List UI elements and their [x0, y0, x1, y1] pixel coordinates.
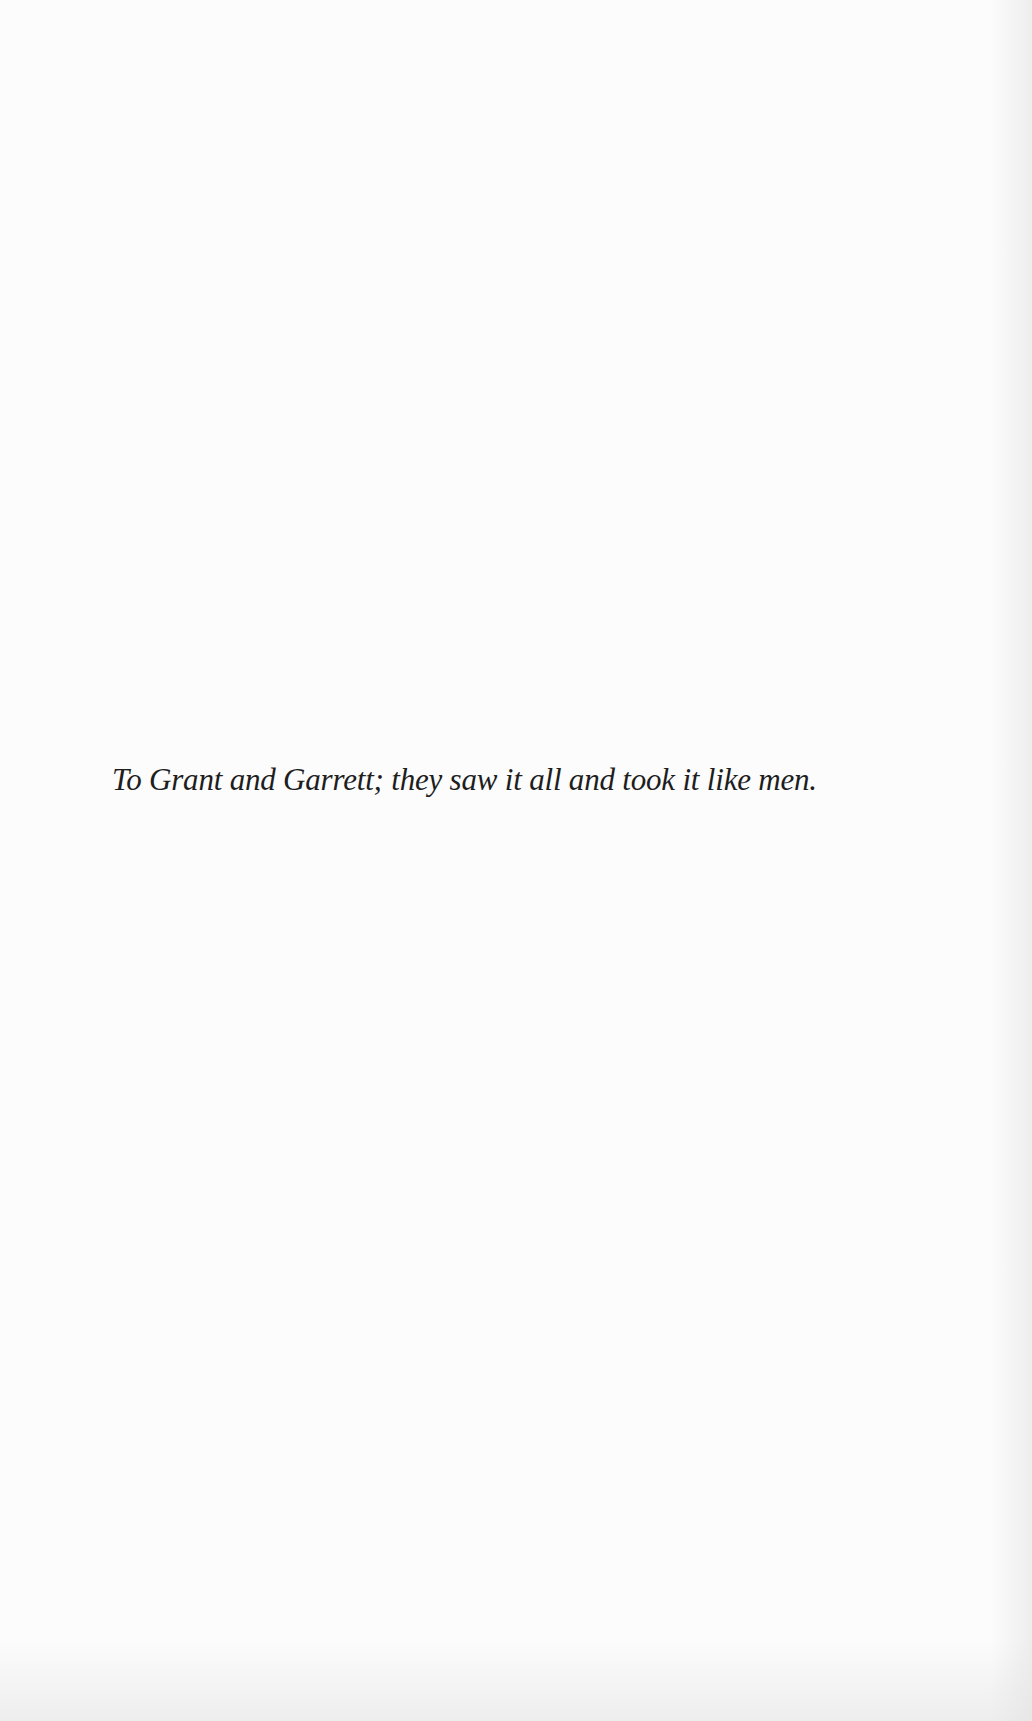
book-page: To Grant and Garrett; they saw it all an… — [0, 0, 1032, 1721]
dedication-text: To Grant and Garrett; they saw it all an… — [112, 760, 817, 800]
